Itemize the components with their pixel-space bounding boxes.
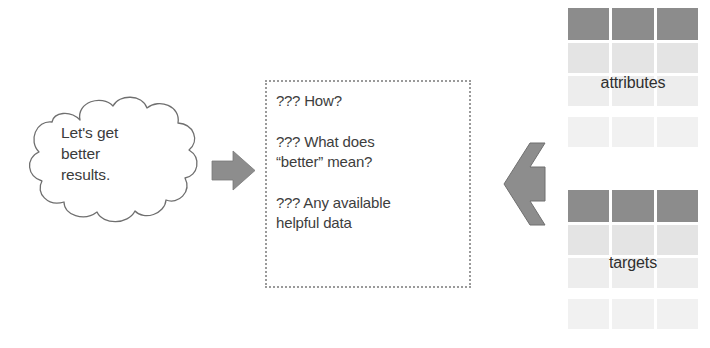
questions-list: ??? How? ??? What does “better” mean? ??… <box>276 91 468 233</box>
diagram-canvas: Let's get better results. ??? How? ??? W… <box>0 0 710 348</box>
attributes-label: attributes <box>568 74 698 92</box>
table-header-cell <box>657 190 698 222</box>
question-marks: ??? <box>276 133 300 150</box>
table-cell <box>657 117 698 147</box>
table-row <box>568 117 698 147</box>
table-row-gap <box>568 106 698 117</box>
table-cell <box>568 225 609 255</box>
table-cell <box>612 43 653 73</box>
table-cell <box>568 299 609 329</box>
table-cell <box>568 43 609 73</box>
question-text-cont: helpful data <box>276 213 468 233</box>
table-header-cell <box>612 190 653 222</box>
table-row-gap <box>568 288 698 299</box>
question-text-cont: “better” mean? <box>276 152 468 172</box>
right-arrow-icon <box>210 148 258 194</box>
targets-label: targets <box>568 254 698 272</box>
table-row <box>568 299 698 329</box>
table-row <box>568 43 698 73</box>
targets-table: targets <box>568 190 698 329</box>
cloud-line-1: Let's get <box>61 122 191 143</box>
thought-cloud: Let's get better results. <box>18 92 214 230</box>
attributes-table: attributes <box>568 8 698 147</box>
question-text: Any available <box>303 194 390 211</box>
table-cell <box>568 117 609 147</box>
question-item: ??? What does “better” mean? <box>276 132 468 172</box>
question-marks: ??? <box>276 194 300 211</box>
table-cell <box>612 225 653 255</box>
table-header-cell <box>612 8 653 40</box>
table-header-cell <box>568 190 609 222</box>
question-marks: ??? <box>276 92 300 109</box>
question-text: What does <box>304 133 374 150</box>
question-text: How? <box>304 92 342 109</box>
cloud-line-3: results. <box>61 164 191 185</box>
merge-left-arrow-icon <box>500 134 556 234</box>
table-cell <box>657 43 698 73</box>
cloud-text: Let's get better results. <box>61 122 191 185</box>
table-cell <box>657 299 698 329</box>
table-header-row <box>568 8 698 40</box>
question-item: ??? How? <box>276 91 468 111</box>
table-cell <box>657 225 698 255</box>
table-header-row <box>568 190 698 222</box>
table-row <box>568 225 698 255</box>
questions-panel: ??? How? ??? What does “better” mean? ??… <box>265 80 471 288</box>
cloud-line-2: better <box>61 143 191 164</box>
table-cell <box>612 299 653 329</box>
table-header-cell <box>657 8 698 40</box>
table-cell <box>612 117 653 147</box>
question-item: ??? Any available helpful data <box>276 193 468 233</box>
table-header-cell <box>568 8 609 40</box>
